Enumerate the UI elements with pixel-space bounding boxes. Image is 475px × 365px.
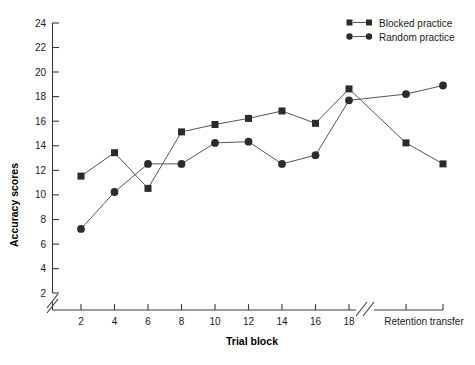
data-point-random-16 (312, 151, 320, 159)
square-marker-icon (347, 20, 353, 26)
data-point-random-12 (245, 138, 253, 146)
data-point-random-retention (402, 90, 410, 98)
legend-item-blocked-practice: Blocked practice (347, 18, 453, 29)
data-point-random-14 (278, 160, 286, 168)
data-point-blocked-14 (279, 108, 286, 115)
data-point-blocked-2 (78, 173, 85, 180)
data-point-random-4 (111, 188, 119, 196)
series-line-blocked-practice (81, 89, 443, 188)
y-axis-title: Accuracy scores (8, 163, 20, 247)
y-tick-label-12: 12 (35, 165, 47, 176)
y-tick-label-16: 16 (35, 116, 47, 127)
x-tick-label-18: 18 (343, 316, 355, 327)
data-point-blocked-10 (212, 121, 219, 128)
y-tick-label-8: 8 (40, 214, 46, 225)
x-tick-label-8: 8 (179, 316, 185, 327)
y-tick-label-18: 18 (35, 91, 47, 102)
data-point-blocked-4 (111, 149, 118, 156)
y-tick-label-2: 2 (40, 288, 46, 299)
data-point-random-18 (345, 96, 353, 104)
x-tick-label-10: 10 (209, 316, 221, 327)
y-tick-label-6: 6 (40, 239, 46, 250)
y-tick-label-4: 4 (40, 263, 46, 274)
y-tick-label-10: 10 (35, 189, 47, 200)
y-tick-label-22: 22 (35, 42, 47, 53)
y-tick-label-14: 14 (35, 140, 47, 151)
square-marker-icon (366, 20, 372, 26)
x-tick-label-retention-transfer: Retention transfer (384, 316, 464, 327)
chart-legend: Blocked practice Random practice (346, 18, 455, 43)
x-tick-label-6: 6 (145, 316, 151, 327)
data-point-random-6 (144, 160, 152, 168)
data-point-random-10 (211, 139, 219, 147)
x-axis-ticks: 2 4 6 8 10 12 14 16 18 Retention transfe… (78, 304, 464, 327)
data-point-blocked-8 (178, 128, 185, 135)
x-axis-break-slash-1 (356, 302, 367, 316)
data-point-blocked-16 (312, 120, 319, 127)
x-tick-label-16: 16 (310, 316, 322, 327)
y-tick-label-20: 20 (35, 67, 47, 78)
x-tick-label-12: 12 (243, 316, 255, 327)
accuracy-scores-line-chart: 24 22 20 18 16 14 12 10 8 6 4 2 (0, 0, 475, 365)
chart-container: 24 22 20 18 16 14 12 10 8 6 4 2 (0, 0, 475, 365)
circle-marker-icon (366, 33, 372, 39)
data-point-random-transfer (439, 82, 447, 90)
x-tick-label-4: 4 (112, 316, 118, 327)
legend-label-random-practice: Random practice (379, 32, 455, 43)
legend-item-random-practice: Random practice (346, 32, 455, 43)
series-random-practice (77, 82, 447, 233)
legend-label-blocked-practice: Blocked practice (379, 18, 453, 29)
data-point-blocked-transfer (440, 160, 447, 167)
data-point-blocked-18 (346, 85, 353, 92)
series-line-random-practice (81, 86, 443, 229)
data-point-random-8 (178, 160, 186, 168)
circle-marker-icon (346, 33, 352, 39)
data-point-random-2 (77, 225, 85, 233)
data-point-blocked-12 (245, 115, 252, 122)
x-axis-title: Trial block (226, 335, 278, 347)
y-axis-ticks: 24 22 20 18 16 14 12 10 8 6 4 2 (35, 18, 59, 299)
x-axis-break-slash-2 (363, 302, 374, 316)
x-tick-label-2: 2 (78, 316, 84, 327)
data-point-blocked-6 (145, 185, 152, 192)
x-tick-label-14: 14 (276, 316, 288, 327)
data-point-blocked-retention (403, 139, 410, 146)
y-tick-label-24: 24 (35, 18, 47, 29)
series-blocked-practice (78, 85, 447, 191)
